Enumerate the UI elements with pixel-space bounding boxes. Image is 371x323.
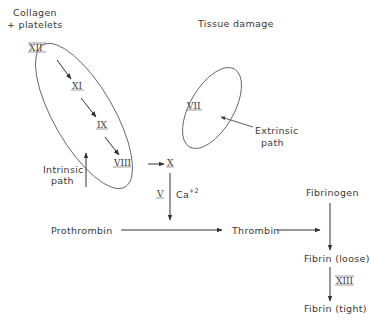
arrow-xi-to-ix — [81, 98, 96, 117]
calcium-label: Ca — [176, 189, 189, 200]
calcium-charge: +2 — [189, 187, 199, 195]
prothrombin-label: Prothrombin — [51, 225, 113, 236]
collagen-label: Collagen — [13, 7, 57, 18]
extrinsic-path-label-1: Extrinsic — [255, 125, 298, 136]
intrinsic-pathway-ellipse — [17, 30, 151, 202]
arrow-xii-to-xi — [57, 60, 71, 79]
factor-x: X — [167, 158, 174, 168]
factor-xii: XII — [29, 43, 43, 53]
fibrinogen-label: Fibrinogen — [306, 187, 359, 198]
tissue-damage-label: Tissue damage — [197, 18, 274, 29]
arrow-ix-to-viii — [105, 137, 119, 155]
factor-v: V — [156, 189, 164, 199]
intrinsic-path-label-2: path — [51, 175, 74, 186]
factor-xiii: XIII — [336, 276, 354, 286]
factor-xi: XI — [72, 81, 82, 91]
arrow-extrinsic-path — [221, 117, 253, 127]
factor-ix: IX — [97, 120, 108, 130]
fibrin-loose-label: Fibrin (loose) — [304, 253, 370, 264]
thrombin-label: Thrombin — [231, 225, 280, 236]
coagulation-cascade-diagram: Collagen + platelets Tissue damage XII X… — [0, 0, 371, 323]
extrinsic-path-label-2: path — [261, 137, 284, 148]
extrinsic-pathway-ellipse — [170, 58, 253, 158]
fibrin-tight-label: Fibrin (tight) — [304, 303, 367, 314]
factor-vii: VII — [186, 101, 201, 111]
factor-viii: VIII — [113, 158, 132, 168]
platelets-label: + platelets — [7, 19, 63, 30]
intrinsic-path-label-1: Intrinsic — [43, 164, 84, 175]
